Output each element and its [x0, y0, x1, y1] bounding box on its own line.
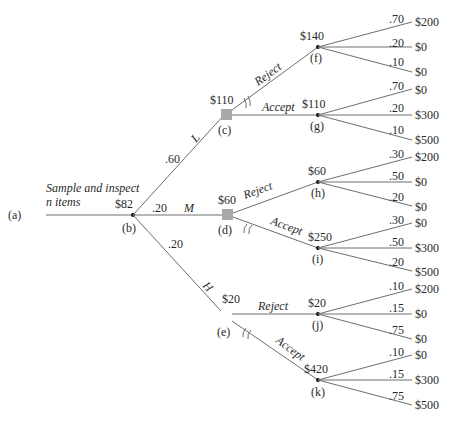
node-d-label: (d): [218, 223, 232, 237]
i-payoff-1: $0: [415, 216, 427, 230]
h-payoff-3: $0: [415, 200, 427, 214]
node-d-value: $60: [218, 193, 236, 207]
decision-node-d: [222, 209, 233, 220]
node-b-label: (b): [122, 221, 136, 235]
k-payoff-1: $0: [415, 348, 427, 362]
k-prob-1: .10: [389, 345, 404, 359]
state-L: L: [187, 130, 203, 145]
f-payoff-1: $200: [415, 15, 439, 29]
j-prob-2: .15: [389, 301, 404, 315]
c-accept-label: Accept: [261, 100, 295, 114]
node-g-label: (g): [310, 119, 324, 133]
g-prob-1: .70: [389, 79, 404, 93]
f-prob-2: .20: [389, 36, 404, 50]
h-prob-3: .20: [389, 190, 404, 204]
node-h-label: (h): [311, 186, 325, 200]
node-k-label: (k): [311, 385, 325, 399]
node-a-label: (a): [8, 208, 21, 222]
e-accept-label: Accept: [272, 333, 308, 364]
node-b-value: $82: [115, 197, 133, 211]
state-M: M: [183, 201, 195, 215]
j-payoff-2: $0: [415, 307, 427, 321]
node-e-label: (e): [217, 325, 230, 339]
e-reject-label: Reject: [257, 299, 289, 313]
h-payoff-1: $200: [415, 150, 439, 164]
node-k-value: $420: [304, 362, 328, 376]
node-i-value: $250: [308, 230, 332, 244]
g-payoff-2: $300: [415, 108, 439, 122]
g-prob-3: .10: [389, 123, 404, 137]
d-reject-label: Reject: [240, 178, 275, 202]
k-payoff-3: $500: [415, 398, 439, 412]
node-h-value: $60: [308, 164, 326, 178]
h-payoff-2: $0: [415, 175, 427, 189]
node-f-label: (f): [310, 51, 322, 65]
j-prob-1: .10: [389, 279, 404, 293]
g-prob-2: .20: [389, 101, 404, 115]
node-c-label: (c): [218, 123, 231, 137]
node-j-label: (j): [312, 318, 323, 332]
g-payoff-1: $0: [415, 83, 427, 97]
prob-L: .60: [165, 152, 180, 166]
node-c-value: $110: [210, 93, 234, 107]
i-payoff-3: $500: [415, 265, 439, 279]
prob-M: .20: [152, 201, 167, 215]
branch-H: [133, 215, 221, 311]
j-payoff-3: $0: [415, 332, 427, 346]
k-prob-3: .75: [389, 389, 404, 403]
node-f-value: $140: [300, 29, 324, 43]
j-payoff-1: $200: [415, 282, 439, 296]
k-payoff-2: $300: [415, 373, 439, 387]
blocked-mark-c: [244, 96, 250, 108]
d-accept-label: Accept: [268, 213, 305, 238]
node-i-label: (i): [312, 252, 323, 266]
f-prob-3: .10: [389, 55, 404, 69]
j-prob-3: .75: [389, 323, 404, 337]
h-prob-1: .30: [389, 147, 404, 161]
i-prob-2: .50: [389, 235, 404, 249]
node-j-value: $20: [308, 296, 326, 310]
i-prob-3: .20: [389, 255, 404, 269]
c-reject-label: Reject: [251, 59, 285, 89]
g-payoff-3: $500: [415, 133, 439, 147]
f-prob-1: .70: [389, 12, 404, 26]
node-g-value: $110: [302, 97, 326, 111]
sample-label: Sample and inspect: [46, 181, 140, 195]
i-payoff-2: $300: [415, 241, 439, 255]
f-payoff-2: $0: [415, 40, 427, 54]
i-prob-1: .30: [389, 213, 404, 227]
h-prob-2: .50: [389, 169, 404, 183]
blocked-mark-d: [244, 224, 252, 234]
k-prob-2: .15: [389, 367, 404, 381]
state-H: H: [199, 278, 217, 296]
decision-tree: (a) Sample and inspect n items $82 (b) .…: [0, 0, 453, 424]
f-payoff-3: $0: [415, 65, 427, 79]
node-e-value: $20: [222, 292, 240, 306]
sample-label-2: n items: [46, 195, 81, 209]
prob-H: .20: [168, 237, 183, 251]
decision-node-c: [221, 109, 232, 120]
